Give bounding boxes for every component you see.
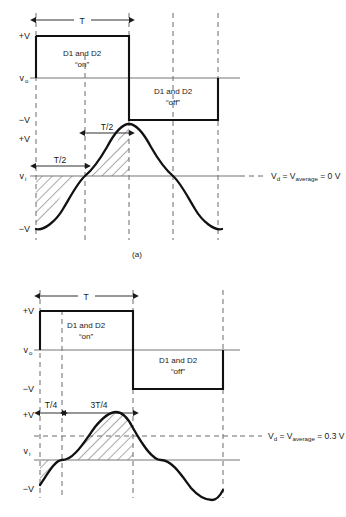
y-label-vo-sub-b: o bbox=[29, 349, 33, 356]
waveform-diagram-a: T +V v o −V D1 and D2 “on” D1 and D2 “of… bbox=[0, 0, 346, 270]
label-d1d2-on-line1-b: D1 and D2 bbox=[67, 321, 106, 330]
y-label-vi-text-b: v bbox=[24, 446, 29, 456]
dimension-label-3T-quarter-b: 3T/4 bbox=[90, 400, 107, 410]
label-d1d2-off-line1-b: D1 and D2 bbox=[159, 356, 198, 365]
dimension-T-quarter-b: T/4 bbox=[40, 400, 62, 413]
avg-average-sub-b: average bbox=[292, 435, 315, 442]
avg-eq-v-a: = V bbox=[280, 171, 296, 181]
y-label-minus-v-lower-b: −V bbox=[23, 484, 34, 494]
label-d1d2-on-line1-a: D1 and D2 bbox=[63, 49, 102, 58]
y-label-vo-b: v o bbox=[24, 345, 34, 356]
dimension-3T-quarter-b: 3T/4 bbox=[66, 400, 133, 413]
y-label-plus-v-lower-a: +V bbox=[19, 134, 30, 144]
y-label-vi-a: v i bbox=[20, 171, 27, 182]
label-d1d2-off-line1-a: D1 and D2 bbox=[154, 87, 193, 96]
figure-caption-a: (a) bbox=[132, 250, 142, 259]
average-annotation-a: Vd = Vaverage = 0 V bbox=[271, 171, 341, 182]
dimension-label-T-quarter-b: T/4 bbox=[45, 400, 58, 410]
y-label-vi-sub-b: i bbox=[29, 450, 30, 457]
avg-average-sub-a: average bbox=[295, 175, 318, 182]
label-d1d2-off-b: D1 and D2 “off” bbox=[159, 356, 198, 376]
label-d1d2-off-line2-b: “off” bbox=[171, 367, 185, 376]
y-label-minus-v-upper-a: −V bbox=[19, 115, 30, 125]
avg-value-a: = 0 V bbox=[318, 171, 341, 181]
y-label-minus-v-lower-a: −V bbox=[19, 224, 30, 234]
y-label-vi-sub-a: i bbox=[25, 175, 26, 182]
y-label-vi-b: v i bbox=[24, 446, 31, 457]
avg-value-b: = 0.3 V bbox=[315, 431, 345, 441]
y-label-vi-text-a: v bbox=[20, 171, 25, 181]
avg-eq-v-b: = V bbox=[277, 431, 293, 441]
waveform-diagram-b: T +V v o −V D1 and D2 “on” D1 and D2 “of… bbox=[0, 270, 346, 517]
svg-text:Vd = Vaverage = 0.3 V: Vd = Vaverage = 0.3 V bbox=[268, 431, 345, 442]
figure-panel-b: T +V v o −V D1 and D2 “on” D1 and D2 “of… bbox=[0, 270, 346, 517]
label-d1d2-off-line2-a: “off” bbox=[166, 98, 180, 107]
dimension-label-T-half-upper-a: T/2 bbox=[101, 122, 114, 132]
y-label-vo-text-b: v bbox=[24, 345, 29, 355]
y-label-vo-sub-a: o bbox=[25, 77, 29, 84]
average-annotation-b: Vd = Vaverage = 0.3 V bbox=[268, 431, 345, 442]
y-label-plus-v-lower-b: +V bbox=[23, 410, 34, 420]
svg-text:Vd = Vaverage = 0 V: Vd = Vaverage = 0 V bbox=[271, 171, 341, 182]
dimension-T-a: T bbox=[36, 14, 129, 26]
y-label-plus-v-upper-b: +V bbox=[23, 306, 34, 316]
y-label-vo-text-a: v bbox=[20, 73, 25, 83]
y-label-plus-v-upper-a: +V bbox=[19, 31, 30, 41]
label-d1d2-on-a: D1 and D2 “on” bbox=[63, 49, 102, 69]
dimension-T-half-lower-a: T/2 bbox=[36, 154, 85, 166]
label-d1d2-on-line2-a: “on” bbox=[75, 60, 90, 69]
y-label-minus-v-upper-b: −V bbox=[23, 384, 34, 394]
dimension-label-T: T bbox=[79, 16, 84, 26]
label-d1d2-on-line2-b: “on” bbox=[79, 332, 94, 341]
y-label-vo-a: v o bbox=[20, 73, 30, 84]
label-d1d2-on-b: D1 and D2 “on” bbox=[67, 321, 106, 341]
figure-panel-a: T +V v o −V D1 and D2 “on” D1 and D2 “of… bbox=[0, 0, 346, 270]
dimension-label-T-b: T bbox=[83, 292, 88, 302]
dimension-T-b: T bbox=[40, 290, 133, 302]
dimension-label-T-half-lower-a: T/2 bbox=[54, 155, 67, 165]
